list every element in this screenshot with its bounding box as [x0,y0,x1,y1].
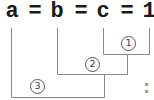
step-2-marker: 2 [85,57,100,72]
assignment-diagram: a = b = c = 1 1 2 3 ▪▪ [0,0,154,100]
step-3-marker: 3 [30,79,45,94]
corner-watermark: ▪▪ [142,80,150,98]
step-1-marker: 1 [121,36,136,51]
